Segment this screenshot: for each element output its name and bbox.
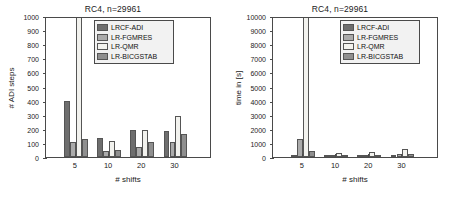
y-tick-label: 10000 [247,14,266,21]
y-tick-label: 5000 [250,84,266,91]
y-tick-mark [270,158,274,159]
legend-item: LR-BICGSTAB [343,52,416,61]
legend-label: LR-QMR [357,43,385,50]
y-tick-mark [43,158,47,159]
y-tick-label: 800 [27,42,39,49]
bar-lr-bicgstab-30 [408,154,414,157]
x-tick-mark [174,154,175,158]
legend-label: LR-QMR [111,43,139,50]
y-axis-title-right: time in [s] [234,70,243,104]
bar-lr-bicgstab-10 [115,150,121,157]
chart-panel-time: RC4, n=29961 010002000300040005000600070… [227,0,453,199]
y-tick-label: 8000 [250,42,266,49]
bar-lr-bicgstab-5 [82,139,88,157]
y-tick-label: 500 [27,84,39,91]
legend-swatch-icon [343,43,354,50]
y-tick-label: 1000 [23,14,39,21]
legend-item: LR-FGMRES [343,33,416,42]
legend-item: LRCF-ADI [343,23,416,32]
y-tick-label: 700 [27,56,39,63]
chart-title-right: RC4, n=29961 [227,4,453,14]
legend-label: LRCF-ADI [357,24,389,31]
bar-lr-bicgstab-10 [342,155,348,157]
x-tick-label: 30 [170,161,178,170]
y-tick-label: 3000 [250,112,266,119]
x-tick-mark [368,154,369,158]
x-tick-label: 20 [137,161,145,170]
bar-lr-bicgstab-20 [375,155,381,157]
x-tick-mark [302,154,303,158]
legend-item: LR-FGMRES [97,33,170,42]
legend-swatch-icon [97,24,108,31]
y-tick-label: 600 [27,70,39,77]
y-tick-label: 0 [35,155,39,162]
y-tick-label: 100 [27,140,39,147]
legend-right: LRCF-ADILR-FGMRESLR-QMRLR-BICGSTAB [340,20,420,64]
y-tick-label: 6000 [250,70,266,77]
legend-item: LR-QMR [97,42,170,51]
y-tick-label: 7000 [250,56,266,63]
x-axis-title-right: # shifts [272,175,438,184]
chart-panel-adi-steps: RC4, n=29961 010020030040050060070080090… [0,0,226,199]
y-tick-label: 0 [262,155,266,162]
x-tick-label: 10 [104,161,112,170]
y-axis-title-left: # ADI steps [7,67,16,108]
bar-lr-bicgstab-30 [181,134,187,157]
chart-title-left: RC4, n=29961 [0,4,226,14]
legend-swatch-icon [343,24,354,31]
x-tick-label: 30 [397,161,405,170]
legend-label: LRCF-ADI [111,24,143,31]
bar-lr-qmr-5 [76,18,82,157]
legend-swatch-icon [97,34,108,41]
x-tick-label: 5 [73,161,77,170]
x-tick-label: 5 [300,161,304,170]
bar-lr-bicgstab-20 [148,142,154,158]
legend-swatch-icon [343,53,354,60]
y-tick-label: 9000 [250,28,266,35]
legend-item: LRCF-ADI [97,23,170,32]
x-tick-label: 10 [331,161,339,170]
legend-label: LR-BICGSTAB [357,53,403,60]
x-tick-mark [108,154,109,158]
legend-label: LR-FGMRES [111,34,152,41]
x-tick-label: 20 [364,161,372,170]
x-tick-mark [401,154,402,158]
y-tick-label: 300 [27,112,39,119]
y-tick-label: 2000 [250,126,266,133]
legend-item: LR-BICGSTAB [97,52,170,61]
figure-root: RC4, n=29961 010020030040050060070080090… [0,0,453,199]
bar-lr-qmr-5 [303,18,309,157]
y-tick-label: 4000 [250,98,266,105]
x-tick-mark [75,154,76,158]
legend-swatch-icon [97,43,108,50]
y-tick-label: 900 [27,28,39,35]
legend-item: LR-QMR [343,42,416,51]
legend-label: LR-FGMRES [357,34,398,41]
legend-left: LRCF-ADILR-FGMRESLR-QMRLR-BICGSTAB [94,20,174,64]
legend-label: LR-BICGSTAB [111,53,157,60]
legend-swatch-icon [343,34,354,41]
legend-swatch-icon [97,53,108,60]
x-tick-mark [335,154,336,158]
y-tick-label: 1000 [250,140,266,147]
bar-lr-bicgstab-5 [309,151,315,157]
y-tick-label: 200 [27,126,39,133]
x-tick-mark [141,154,142,158]
y-tick-label: 400 [27,98,39,105]
x-axis-title-left: # shifts [45,175,211,184]
